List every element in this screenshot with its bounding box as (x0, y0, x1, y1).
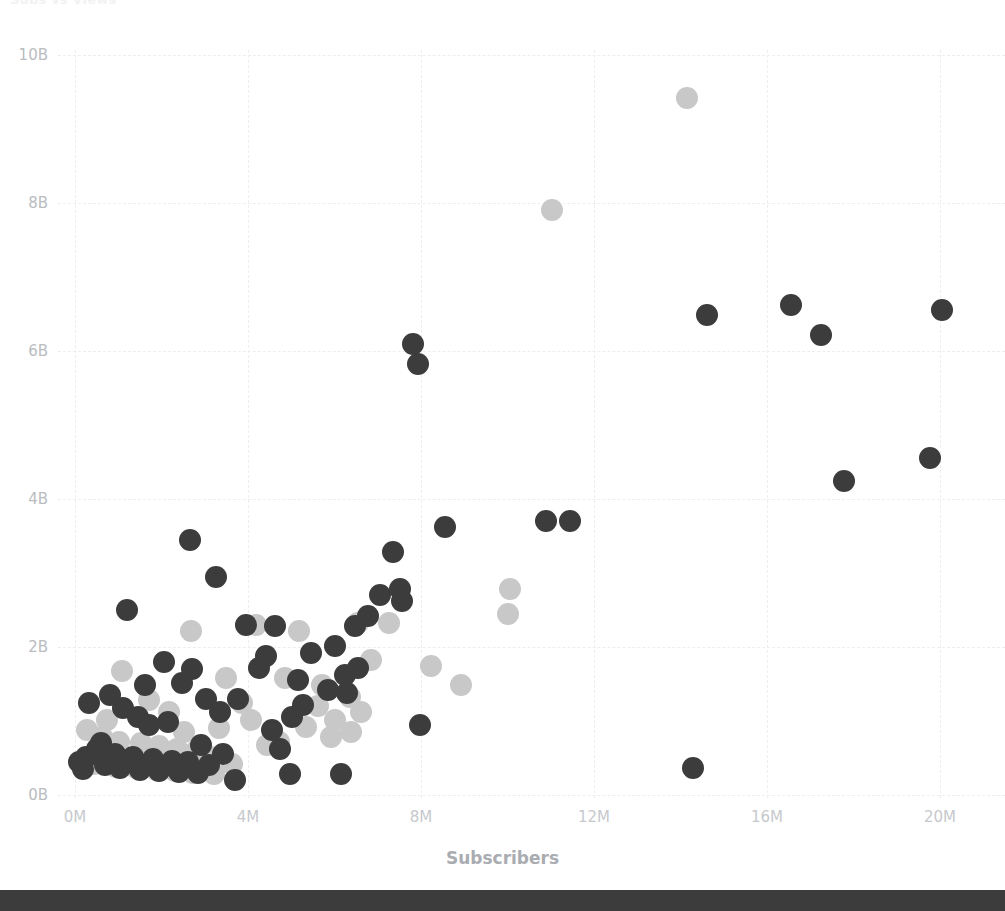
x-axis-tick-label: 12M (559, 808, 629, 826)
window-bottom-bar[interactable] (0, 890, 1005, 911)
y-axis-tick-label: 10B (0, 46, 48, 64)
y-axis-tick-label: 6B (0, 342, 48, 360)
x-axis-title: Subscribers (0, 848, 1005, 868)
y-axis-tick-label: 2B (0, 638, 48, 656)
x-axis-tick-label: 16M (732, 808, 802, 826)
x-axis-tick-label: 0M (40, 808, 110, 826)
chart-screenshot-root: Subs vs Views 0B2B4B6B8B10B0M4M8M12M16M2… (0, 0, 1005, 911)
x-axis-tick-label: 4M (213, 808, 283, 826)
y-axis-tick-label: 8B (0, 194, 48, 212)
y-axis-tick-label: 0B (0, 786, 48, 804)
scatter-plot[interactable]: 0B2B4B6B8B10B0M4M8M12M16M20M (0, 0, 1005, 860)
axis-layer: 0B2B4B6B8B10B0M4M8M12M16M20M (0, 0, 1005, 860)
x-axis-tick-label: 20M (905, 808, 975, 826)
x-axis-tick-label: 8M (386, 808, 456, 826)
y-axis-tick-label: 4B (0, 490, 48, 508)
